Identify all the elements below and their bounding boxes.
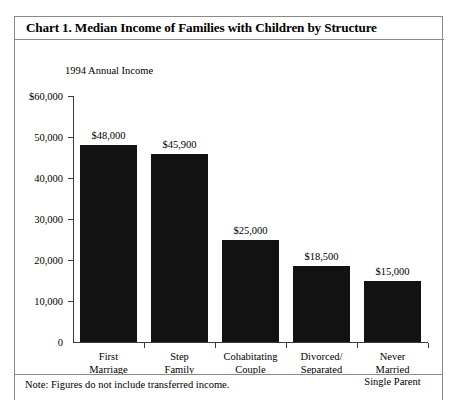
plot-area: 1994 Annual Income $60,00050,00040,00030… — [15, 39, 444, 400]
x-axis-tick — [428, 343, 429, 348]
y-axis-tick — [68, 301, 74, 302]
x-axis-tick — [215, 343, 216, 348]
y-axis-caption: 1994 Annual Income — [65, 65, 153, 76]
bar — [151, 154, 208, 342]
chart-footnote: Note: Figures do not include transferred… — [25, 379, 229, 390]
y-axis-tick — [68, 260, 74, 261]
category-label: Divorced/Separated — [301, 351, 343, 376]
bar — [364, 281, 421, 343]
y-axis-tick-label: $60,000 — [29, 91, 63, 102]
category-label-line: Divorced/ — [301, 351, 343, 364]
category-label: StepFamily — [165, 351, 195, 376]
bar-value-label: $25,000 — [233, 225, 267, 236]
bar-value-label: $18,500 — [304, 251, 338, 262]
category-label-line: Cohabitating — [223, 351, 277, 364]
bar — [293, 266, 350, 342]
y-axis-tick — [68, 137, 74, 138]
bar-value-label: $48,000 — [91, 130, 125, 141]
x-axis-line — [73, 342, 428, 343]
category-label: NeverMarriedSingle Parent — [364, 351, 420, 389]
category-label-line: Step — [165, 351, 195, 364]
category-label-line: First — [89, 351, 127, 364]
category-label: FirstMarriage — [89, 351, 127, 376]
chart-title: Chart 1. Median Income of Families with … — [15, 17, 444, 39]
chart-figure-frame: Chart 1. Median Income of Families with … — [14, 16, 443, 400]
y-axis-tick — [68, 178, 74, 179]
bar — [80, 145, 137, 342]
x-axis-tick — [357, 343, 358, 348]
x-axis-tick — [144, 343, 145, 348]
bar-value-label: $15,000 — [375, 266, 409, 277]
footnote-divider — [14, 374, 443, 375]
y-axis-tick-label: 40,000 — [34, 173, 63, 184]
y-axis-tick — [68, 96, 74, 97]
category-label: CohabitatingCouple — [223, 351, 277, 376]
category-label-line: Single Parent — [364, 376, 420, 389]
y-axis-tick — [68, 219, 74, 220]
x-axis-tick — [286, 343, 287, 348]
bar — [222, 240, 279, 343]
y-axis-tick-label: 30,000 — [34, 214, 63, 225]
y-axis-tick-label: 20,000 — [34, 255, 63, 266]
y-axis-tick-label: 10,000 — [34, 296, 63, 307]
category-label-line: Never — [364, 351, 420, 364]
bar-value-label: $45,900 — [162, 139, 196, 150]
y-axis-tick-label: 50,000 — [34, 132, 63, 143]
y-axis-tick-label: 0 — [58, 337, 63, 348]
